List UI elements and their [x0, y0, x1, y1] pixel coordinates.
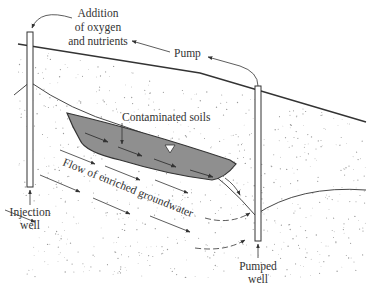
soil-dot: [94, 246, 95, 247]
soil-dot: [187, 197, 188, 198]
soil-dot: [248, 109, 249, 110]
soil-dot: [317, 251, 318, 252]
soil-dot: [58, 167, 59, 168]
soil-dot: [148, 255, 149, 256]
soil-dot: [305, 257, 306, 258]
soil-dot: [131, 97, 132, 98]
soil-dot: [70, 243, 71, 244]
soil-dot: [194, 64, 195, 65]
soil-dot: [245, 113, 246, 114]
soil-dot: [358, 93, 359, 94]
soil-dot: [79, 146, 80, 147]
soil-dot: [220, 103, 221, 104]
soil-dot: [220, 242, 221, 243]
soil-dot: [241, 144, 242, 145]
soil-dot: [355, 103, 356, 104]
soil-dot: [292, 145, 293, 146]
soil-dot: [207, 44, 208, 45]
soil-dot: [325, 79, 326, 80]
soil-dot: [281, 225, 282, 226]
soil-dot: [163, 250, 164, 251]
soil-dot: [362, 230, 363, 231]
soil-dot: [295, 211, 296, 212]
soil-dot: [250, 65, 251, 66]
soil-dot: [151, 246, 152, 247]
soil-dot: [194, 128, 195, 129]
soil-dot: [364, 191, 365, 192]
soil-dot: [62, 190, 63, 191]
soil-dot: [296, 131, 297, 132]
soil-dot: [215, 213, 216, 214]
soil-dot: [162, 253, 163, 254]
soil-dot: [280, 157, 281, 158]
soil-dot: [116, 189, 117, 190]
soil-dot: [340, 194, 341, 195]
soil-dot: [25, 186, 26, 187]
soil-dot: [333, 218, 334, 219]
soil-dot: [157, 207, 158, 208]
soil-dot: [92, 255, 93, 256]
soil-dot: [93, 193, 94, 194]
soil-dot: [134, 47, 135, 48]
soil-dot: [263, 44, 264, 45]
soil-dot: [246, 245, 247, 246]
soil-dot: [296, 236, 297, 237]
soil-dot: [161, 246, 162, 247]
soil-dot: [50, 146, 51, 147]
soil-dot: [271, 72, 272, 73]
soil-dot: [260, 49, 261, 50]
soil-dot: [264, 214, 265, 215]
soil-dot: [42, 72, 43, 73]
soil-dot: [42, 134, 43, 135]
soil-dot: [307, 78, 308, 79]
soil-dot: [342, 119, 343, 120]
soil-dot: [181, 125, 182, 126]
soil-dot: [318, 140, 319, 141]
soil-dot: [207, 256, 208, 257]
soil-dot: [217, 266, 218, 267]
soil-dot: [328, 246, 329, 247]
soil-dot: [58, 234, 59, 235]
soil-dot: [44, 251, 45, 252]
soil-dot: [139, 255, 140, 256]
soil-dot: [276, 179, 277, 180]
soil-dot: [33, 200, 34, 201]
soil-dot: [358, 220, 359, 221]
soil-dot: [109, 90, 110, 91]
soil-dot: [222, 42, 223, 43]
soil-dot: [289, 115, 290, 116]
soil-dot: [200, 201, 201, 202]
soil-dot: [305, 111, 306, 112]
soil-dot: [184, 74, 185, 75]
soil-dot: [312, 208, 313, 209]
soil-dot: [60, 69, 61, 70]
soil-dot: [66, 244, 67, 245]
soil-dot: [44, 231, 45, 232]
soil-dot: [173, 131, 174, 132]
soil-dot: [191, 189, 192, 190]
soil-dot: [104, 101, 105, 102]
soil-dot: [325, 41, 326, 42]
soil-dot: [124, 230, 125, 231]
soil-dot: [308, 153, 309, 154]
soil-dot: [356, 152, 357, 153]
soil-dot: [23, 193, 24, 194]
soil-dot: [237, 205, 238, 206]
soil-dot: [221, 95, 222, 96]
soil-dot: [181, 200, 182, 201]
soil-dot: [334, 231, 335, 232]
pump-label: Pump: [174, 47, 201, 60]
soil-dot: [156, 171, 157, 172]
soil-dot: [97, 66, 98, 67]
soil-dot: [112, 57, 113, 58]
soil-dot: [107, 264, 108, 265]
soil-dot: [68, 144, 69, 145]
soil-dot: [264, 173, 265, 174]
soil-dot: [149, 93, 150, 94]
soil-dot: [339, 42, 340, 43]
soil-dot: [64, 257, 65, 258]
soil-dot: [273, 154, 274, 155]
soil-dot: [306, 252, 307, 253]
soil-dot: [321, 140, 322, 141]
soil-dot: [39, 194, 40, 195]
